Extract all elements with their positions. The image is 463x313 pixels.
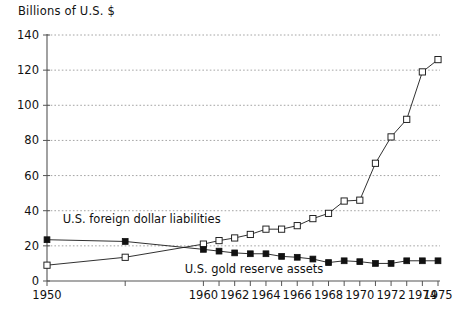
series-1-marker-1950 bbox=[44, 237, 50, 243]
x-tick-label-1975: 1975 bbox=[423, 288, 452, 302]
series-0-marker-1950 bbox=[44, 262, 50, 268]
series-1-marker-1967 bbox=[310, 256, 316, 262]
series-0-marker-1975 bbox=[435, 57, 441, 63]
series-1-marker-1972 bbox=[388, 261, 394, 267]
series-annotation-0: U.S. foreign dollar liabilities bbox=[63, 212, 221, 226]
series-1-marker-1969 bbox=[341, 258, 347, 264]
series-0-marker-1970 bbox=[357, 197, 363, 203]
series-line-0 bbox=[47, 60, 438, 266]
line-chart-plot: 020406080100120140 195019601962196419661… bbox=[0, 0, 463, 313]
series-1-marker-1973 bbox=[404, 258, 410, 264]
series-1-marker-1955 bbox=[122, 239, 128, 245]
y-tick-labels-group: 020406080100120140 bbox=[17, 28, 39, 288]
axes-group bbox=[47, 34, 440, 281]
series-1-marker-1965 bbox=[279, 254, 285, 260]
series-1-marker-1962 bbox=[232, 250, 238, 256]
series-1-marker-1968 bbox=[326, 260, 332, 266]
series-1-marker-1974 bbox=[419, 258, 425, 264]
series-0-marker-1974 bbox=[419, 69, 425, 75]
y-tick-label-60: 60 bbox=[24, 169, 39, 183]
x-tick-labels-group: 1950196019621964196619681970197219741975 bbox=[32, 288, 452, 302]
series-0-marker-1967 bbox=[310, 216, 316, 222]
series-0-marker-1966 bbox=[294, 223, 300, 229]
series-0-marker-1962 bbox=[232, 235, 238, 241]
series-0-marker-1971 bbox=[372, 160, 378, 166]
x-tick-label-1968: 1968 bbox=[314, 288, 343, 302]
series-annotation-1: U.S. gold reserve assets bbox=[185, 262, 324, 276]
series-annotations-group: U.S. foreign dollar liabilitiesU.S. gold… bbox=[63, 212, 324, 276]
series-0-marker-1969 bbox=[341, 198, 347, 204]
x-tick-label-1950: 1950 bbox=[32, 288, 61, 302]
series-1-marker-1964 bbox=[263, 251, 269, 257]
series-0-marker-1964 bbox=[263, 226, 269, 232]
x-tick-label-1962: 1962 bbox=[220, 288, 249, 302]
chart-figure: Billions of U.S. $ 020406080100120140 19… bbox=[0, 0, 463, 313]
series-1-marker-1975 bbox=[435, 258, 441, 264]
y-tick-label-40: 40 bbox=[24, 204, 39, 218]
x-tick-label-1960: 1960 bbox=[189, 288, 218, 302]
series-1-marker-1971 bbox=[373, 261, 379, 267]
y-tick-label-140: 140 bbox=[17, 28, 39, 42]
y-tick-label-80: 80 bbox=[24, 133, 39, 147]
series-0-marker-1965 bbox=[279, 226, 285, 232]
series-lines-group bbox=[47, 60, 438, 266]
series-1-marker-1966 bbox=[294, 254, 300, 260]
series-line-1 bbox=[47, 240, 438, 264]
series-0-marker-1963 bbox=[247, 231, 253, 237]
series-0-marker-1972 bbox=[388, 134, 394, 140]
x-tick-label-1972: 1972 bbox=[376, 288, 405, 302]
series-0-marker-1961 bbox=[216, 237, 222, 243]
series-0-marker-1968 bbox=[325, 210, 331, 216]
series-1-marker-1970 bbox=[357, 259, 363, 265]
x-tick-marks-group bbox=[47, 281, 438, 286]
x-tick-label-1970: 1970 bbox=[345, 288, 374, 302]
y-tick-label-0: 0 bbox=[32, 274, 39, 288]
y-tick-label-100: 100 bbox=[17, 98, 39, 112]
series-1-marker-1960 bbox=[201, 246, 207, 252]
y-tick-label-20: 20 bbox=[24, 239, 39, 253]
x-tick-label-1966: 1966 bbox=[283, 288, 312, 302]
series-1-marker-1963 bbox=[247, 251, 253, 257]
y-tick-label-120: 120 bbox=[17, 63, 39, 77]
x-tick-label-1964: 1964 bbox=[251, 288, 280, 302]
series-0-marker-1973 bbox=[404, 116, 410, 122]
series-0-marker-1955 bbox=[122, 254, 128, 260]
series-1-marker-1961 bbox=[216, 248, 222, 254]
